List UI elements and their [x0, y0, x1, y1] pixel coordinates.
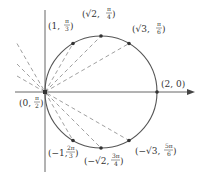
svg-text:4: 4: [107, 13, 111, 20]
svg-text:): ): [70, 21, 74, 31]
label-p0: (0, π 2 ): [19, 94, 44, 109]
svg-text:π: π: [107, 5, 111, 12]
label-p4: (2, 0): [161, 79, 185, 89]
svg-text:2π: 2π: [67, 144, 75, 151]
svg-text:): ): [162, 24, 166, 34]
polar-diagram: (1, π 3 ) (√2, π 4 ) (√3, π 6 ) (2, 0) (…: [0, 0, 202, 181]
svg-text:π: π: [35, 94, 39, 101]
svg-text:(−√3,: (−√3,: [135, 146, 160, 156]
svg-text:): ): [40, 98, 44, 108]
svg-text:(−√2,: (−√2,: [84, 156, 109, 166]
svg-text:π: π: [65, 17, 69, 24]
label-p7: (−√3, 5π 6 ): [135, 142, 177, 157]
svg-text:): ): [120, 156, 124, 166]
svg-text:(−1,: (−1,: [48, 148, 68, 158]
label-p5: (−1, 2π 3 ): [48, 144, 79, 159]
svg-text:6: 6: [157, 28, 161, 35]
svg-text:2: 2: [35, 102, 39, 109]
svg-text:π: π: [157, 20, 161, 27]
svg-text:(0,: (0,: [19, 98, 31, 108]
label-p3: (√3, π 6 ): [132, 20, 166, 35]
svg-text:4: 4: [114, 160, 118, 167]
svg-text:(√2,: (√2,: [82, 9, 100, 19]
svg-text:3π: 3π: [112, 152, 120, 159]
label-p6: (−√2, 3π 4 ): [84, 152, 124, 167]
svg-text:(2, 0): (2, 0): [161, 79, 185, 89]
svg-text:): ): [112, 9, 116, 19]
svg-text:): ): [173, 146, 177, 156]
label-p1: (1, π 3 ): [48, 17, 74, 32]
svg-text:3: 3: [69, 152, 73, 159]
svg-text:5π: 5π: [165, 142, 173, 149]
axis-arrow-icon: [187, 89, 195, 95]
svg-text:): ): [75, 148, 79, 158]
svg-text:(1,: (1,: [48, 21, 60, 31]
svg-text:3: 3: [65, 25, 69, 32]
svg-text:6: 6: [167, 150, 171, 157]
svg-text:(√3,: (√3,: [132, 24, 150, 34]
label-p2: (√2, π 4 ): [82, 5, 116, 20]
